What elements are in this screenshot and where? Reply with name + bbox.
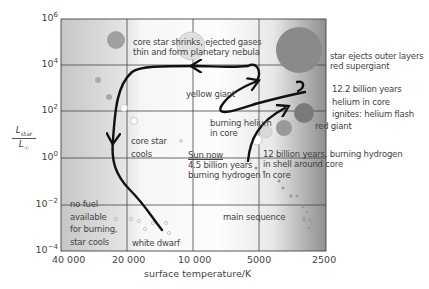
label-core-star-cools: core starcools [131,135,167,160]
label-helium-flash: 12.2 billion yearshelium in coreignites:… [332,83,414,121]
label-hydrogen-shell: 12 billion years, burning hydrogenin she… [263,149,402,169]
x-tick-10000: 10 000 [178,254,211,265]
y-tick-1e2: 102 [18,103,58,115]
label-yellow-giant: yellow giant [186,89,235,99]
y-tick-1e6: 106 [18,11,58,23]
label-red-supergiant: star ejects outer layersred supergiant [330,51,423,71]
y-tick-1e-2: 10−2 [18,197,58,209]
x-axis-label: surface temperature/K [144,268,251,279]
x-tick-40000: 40 000 [52,254,85,265]
label-main-sequence: main sequence [223,212,285,222]
label-burning-helium: burning heliumin core [210,118,272,138]
hot-giant-star [107,31,125,49]
label-white-dwarf: white dwarf [132,238,180,248]
x-tick-5000: 5000 [247,254,271,265]
x-tick-20000: 20 000 [112,254,145,265]
label-planetary-nebula: core star shrinks, ejected gasesthin and… [133,37,262,57]
label-red-giant: red giant [315,121,352,131]
x-tick-2500: 2500 [312,254,336,265]
red-giant-star [294,103,314,123]
red-supergiant-star [276,27,322,73]
y-tick-1e4: 104 [18,57,58,69]
y-tick-1e0: 100 [18,150,58,162]
y-axis-label: Lstar L☉ [12,125,36,151]
label-no-fuel: no fuelavailablefor burning,star cools [70,198,117,248]
